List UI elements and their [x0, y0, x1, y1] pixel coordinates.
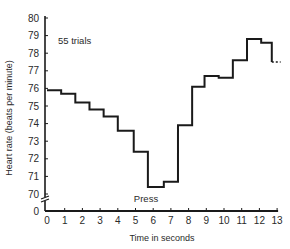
x-tick-label: 12 [254, 215, 266, 226]
x-tick-label: 5 [133, 215, 139, 226]
y-tick-label: 76 [28, 83, 40, 94]
y-tick-label: 78 [28, 48, 40, 59]
x-tick-label: 13 [272, 215, 284, 226]
y-tick-label: 0 [33, 206, 39, 217]
x-axis-label: Time in seconds [129, 233, 195, 243]
y-tick-label: 79 [28, 30, 40, 41]
heart-rate-step-line [47, 39, 272, 187]
x-tick-label: 8 [186, 215, 192, 226]
x-tick-label: 1 [62, 215, 68, 226]
x-tick-label: 3 [97, 215, 103, 226]
y-tick-label: 72 [28, 153, 40, 164]
x-tick-label: 11 [237, 215, 248, 226]
x-tick-label: 7 [168, 215, 174, 226]
heart-rate-chart: 07071727374757677787980 0123456789101112… [0, 0, 290, 249]
x-tick-label: 2 [80, 215, 86, 226]
y-tick-label: 77 [28, 65, 40, 76]
press-annotation: Press [134, 193, 159, 204]
x-tick-label: 0 [44, 215, 50, 226]
x-tick-label: 4 [115, 215, 121, 226]
x-tick-label: 6 [150, 215, 156, 226]
y-axis-label: Heart rate (beats per minute) [4, 60, 14, 176]
x-tick-label: 10 [218, 215, 230, 226]
y-tick-label: 71 [28, 171, 40, 182]
trials-annotation: 55 trials [58, 35, 92, 46]
y-tick-label: 75 [28, 101, 40, 112]
y-tick-label: 80 [28, 13, 40, 24]
y-tick-label: 70 [28, 189, 40, 200]
x-tick-label: 9 [204, 215, 210, 226]
y-tick-label: 74 [28, 118, 40, 129]
data-series [47, 39, 281, 187]
y-tick-label: 73 [28, 136, 40, 147]
